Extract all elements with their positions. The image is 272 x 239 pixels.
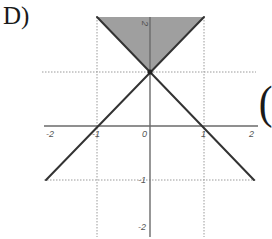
- next-option-fragment: (: [259, 80, 272, 126]
- tick-x-neg2: -2: [46, 129, 54, 139]
- tick-y-neg2: -2: [138, 222, 146, 232]
- tick-x-2: 2: [248, 129, 254, 139]
- tick-y-2: 2: [140, 20, 150, 26]
- tick-y-neg1: -1: [138, 175, 146, 185]
- vertex-point: [148, 70, 153, 75]
- tick-x-1: 1: [201, 129, 206, 139]
- tick-x-0: 0: [142, 129, 147, 139]
- graph: -2 -1 0 1 2 2 -1 -2: [0, 0, 272, 239]
- tick-x-neg1: -1: [92, 129, 100, 139]
